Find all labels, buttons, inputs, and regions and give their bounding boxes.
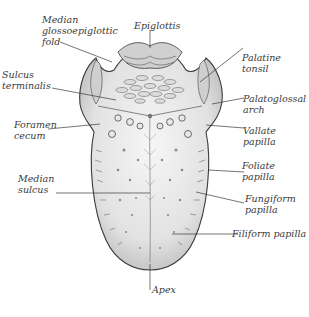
label-palatoglossal-arch: Palatoglossal arch xyxy=(243,93,306,115)
label-sulcus-terminalis: Sulcus terminalis xyxy=(2,69,51,91)
label-epiglottis: Epiglottis xyxy=(134,20,180,31)
tongue-anatomy-figure: Median glossoepiglottic fold Epiglottis … xyxy=(0,0,309,317)
label-fungiform-papilla: Fungiform papilla xyxy=(245,193,296,215)
label-median-sulcus: Median sulcus xyxy=(18,173,54,195)
label-filiform-papilla: Filiform papilla xyxy=(232,228,306,239)
label-vallate-papilla: Vallate papilla xyxy=(243,125,276,147)
label-foramen-cecum: Foramen cecum xyxy=(14,119,57,141)
label-foliate-papilla: Foliate papilla xyxy=(242,160,275,182)
label-apex: Apex xyxy=(152,284,176,295)
label-median-glossoepiglottic-fold: Median glossoepiglottic fold xyxy=(42,14,118,47)
label-palatine-tonsil: Palatine tonsil xyxy=(242,52,281,74)
tongue-illustration xyxy=(0,0,309,317)
foramen-cecum-mark xyxy=(148,114,152,118)
